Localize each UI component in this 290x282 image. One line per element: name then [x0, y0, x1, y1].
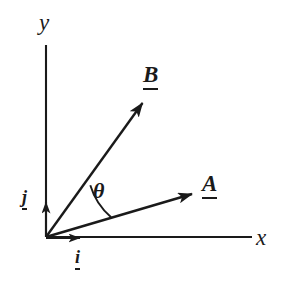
unit-vector-i-label: i: [75, 248, 80, 270]
vector-b-label: B: [143, 63, 158, 90]
vector-diagram-figure: y x B A i j θ: [0, 0, 290, 282]
vector-diagram-canvas: [0, 0, 290, 282]
y-axis-label: y: [39, 11, 49, 34]
unit-vector-j-label: j: [22, 188, 27, 210]
x-axis-label: x: [256, 226, 266, 249]
vector-a-arrow: [46, 194, 192, 237]
vector-b-arrow: [46, 103, 143, 237]
vector-a-label: A: [202, 172, 217, 199]
angle-theta-label: θ: [93, 180, 104, 202]
